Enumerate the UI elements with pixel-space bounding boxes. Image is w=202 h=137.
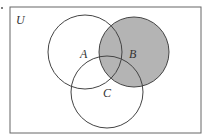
- bullet-mark: [1, 7, 3, 9]
- set-c-label: C: [103, 86, 112, 100]
- set-b-label: B: [129, 47, 137, 61]
- universe-label: U: [16, 13, 26, 27]
- venn-diagram: U A B C: [0, 0, 202, 137]
- set-a-label: A: [79, 47, 88, 61]
